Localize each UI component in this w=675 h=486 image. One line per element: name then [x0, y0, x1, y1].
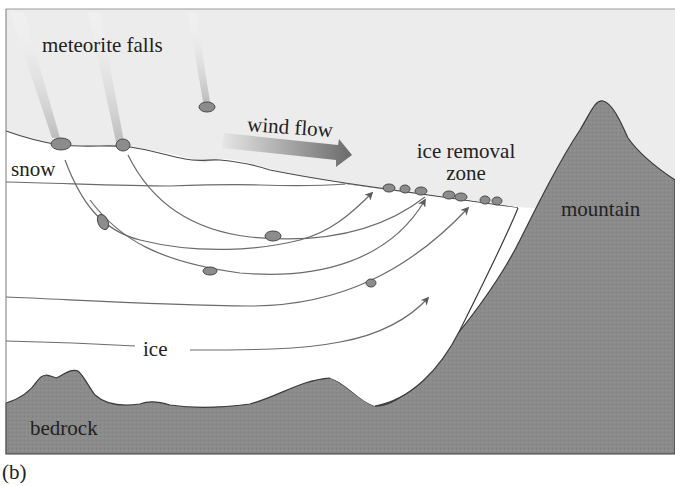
- figure-caption: (b): [2, 462, 27, 483]
- meteorite-surface-2: [116, 139, 130, 151]
- meteorite-falling: [199, 102, 215, 112]
- meteorite-surface-1: [51, 138, 71, 150]
- label-mountain: mountain: [561, 199, 640, 220]
- meteorite-in-ice-2: [265, 231, 281, 241]
- label-ice-removal-zone: ice removal zone: [408, 140, 524, 184]
- label-wind-flow: wind flow: [247, 114, 334, 141]
- meteorite-in-ice-3: [203, 267, 217, 275]
- label-ice-removal-line2: zone: [408, 162, 524, 184]
- meteorite-ice-flow-diagram: [0, 0, 675, 486]
- label-ice: ice: [143, 339, 167, 360]
- label-meteorite-falls: meteorite falls: [42, 35, 163, 56]
- label-ice-removal-line1: ice removal: [408, 140, 524, 162]
- label-bedrock: bedrock: [30, 418, 98, 439]
- meteorite-in-ice-4: [366, 279, 376, 287]
- label-snow: snow: [11, 159, 55, 180]
